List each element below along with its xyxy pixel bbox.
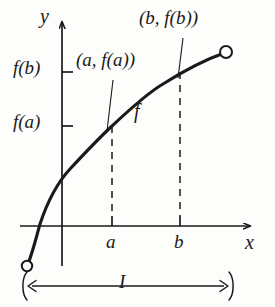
interval-label: I <box>119 272 125 291</box>
leader-line-a <box>107 80 113 131</box>
point-label-b: (b, f(b)) <box>139 8 198 27</box>
point-label-a: (a, f(a)) <box>76 50 135 69</box>
function-graph-figure: y x f(b) f(a) a b (a, f(a)) (b, f(b)) f … <box>0 0 275 307</box>
function-curve <box>28 53 226 266</box>
interval-left-paren-icon <box>23 272 27 300</box>
curve-label-f: f <box>134 101 140 121</box>
y-tick-label-fb: f(b) <box>13 58 40 77</box>
x-tick-label-b: b <box>174 232 184 251</box>
x-tick-label-a: a <box>106 232 116 251</box>
y-tick-label-fa: f(a) <box>13 112 40 131</box>
y-axis-label: y <box>40 6 49 26</box>
x-axis-label: x <box>245 232 254 252</box>
open-endpoint-left-icon <box>22 261 32 271</box>
interval-right-paren-icon <box>229 272 233 300</box>
graph-canvas <box>0 0 275 307</box>
open-endpoint-right-icon <box>220 46 232 58</box>
